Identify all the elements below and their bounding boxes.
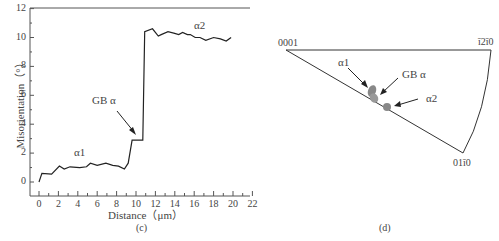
misorientation-line — [39, 29, 231, 182]
x-axis-ticks — [39, 191, 252, 196]
vertex-0001: 0001 — [278, 37, 298, 48]
annotation-alpha1: α1 — [74, 146, 85, 158]
a1-arrow-icon — [348, 68, 368, 88]
x-tick-label: 4 — [68, 198, 88, 209]
annotation-alpha2: α2 — [194, 19, 205, 31]
y-axis-ticks — [30, 9, 34, 182]
annotation-gb-alpha: GB α — [92, 94, 116, 106]
x-tick-label: 2 — [48, 198, 68, 209]
caption-c: (c) — [136, 222, 147, 233]
x-tick-label: 18 — [204, 198, 224, 209]
x-tick-label: 20 — [223, 198, 243, 209]
y-tick-label: 12 — [16, 2, 26, 13]
gb-arrow-icon — [117, 111, 136, 135]
point-a2 — [383, 103, 391, 111]
ipf-triangle — [286, 50, 491, 153]
x-axis-label: Distance（μm） — [108, 206, 183, 222]
y-axis-label: Misorientation（°） — [11, 48, 27, 158]
x-tick-label: 0 — [29, 198, 49, 209]
ipf-annotation-alpha2: α2 — [426, 92, 437, 104]
x-tick-label: 22 — [242, 198, 262, 209]
y-tick-label: 10 — [16, 31, 26, 42]
vertex-0110: 01ī0 — [453, 157, 471, 168]
a2-arrow-icon — [394, 99, 418, 107]
vertex-1210: ī2ī0 — [478, 36, 494, 47]
inverse-pole-figure — [286, 50, 491, 153]
x-tick-label: 16 — [184, 198, 204, 209]
ipf-annotation-alpha1: α1 — [338, 56, 349, 68]
gb-arrow-icon-d — [380, 78, 398, 95]
ipf-annotation-gb-alpha: GB α — [402, 68, 426, 80]
caption-d: (d) — [379, 222, 391, 233]
y-tick-label: 0 — [21, 175, 26, 186]
x-tick-label: 6 — [87, 198, 107, 209]
